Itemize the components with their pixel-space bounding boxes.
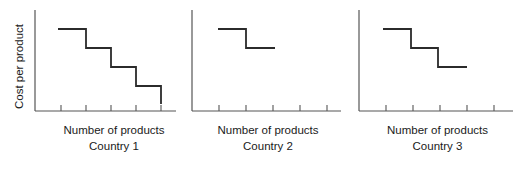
plot-area-country-2 [176,0,348,122]
x-axis-caption-block: Number of products Country 1 [0,122,204,154]
x-axis-caption-block: Number of products Country 2 [176,122,354,154]
plot-area-country-3 [345,0,518,122]
x-axis-label: Number of products [182,122,354,138]
chart-panel-country-1: Cost per product Number of products Coun… [0,0,180,172]
plot-area-country-1 [0,0,180,122]
panel-caption: Country 3 [351,138,518,154]
x-axis-label: Number of products [351,122,518,138]
step-line-series [58,29,161,104]
chart-panel-country-3: Number of products Country 3 [345,0,518,172]
panel-caption: Country 2 [182,138,354,154]
step-line-series [383,29,467,67]
x-axis-caption-block: Number of products Country 3 [345,122,518,154]
chart-panel-country-2: Number of products Country 2 [176,0,348,172]
step-line-series [218,29,275,48]
three-panel-step-chart-figure: Cost per product Number of products Coun… [0,0,518,172]
